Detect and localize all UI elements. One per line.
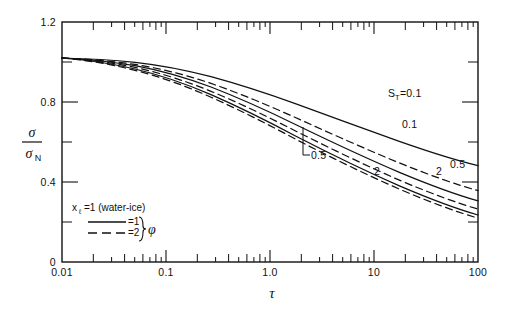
legend: x ℓ =1 (water-ice) =1 =2 φ — [72, 202, 156, 241]
x-tick-label-1.0: 1.0 — [262, 266, 278, 278]
annotation-2-dashed: 2 — [374, 165, 380, 177]
y-tick-label-0.8: 0.8 — [41, 96, 57, 108]
x-axis-tick-labels: 0.01 0.1 1.0 10 100 — [51, 266, 487, 278]
legend-label-phi-1: =1 — [128, 216, 140, 227]
annotation-0.1-dashed: 0.1 — [402, 118, 417, 130]
x-tick-label-0.01: 0.01 — [51, 266, 73, 278]
legend-header-main: x — [72, 202, 77, 213]
y-axis-ticks — [62, 62, 478, 222]
y-axis-title: σ σ N — [22, 125, 42, 163]
annotation-0.5-solid: 0.5 — [311, 149, 326, 161]
x-axis-title: τ — [269, 285, 275, 301]
legend-brace — [139, 217, 146, 241]
annotation-st-0.1: S T =0.1 — [388, 87, 422, 102]
curve-annotations: S T =0.1 0.1 0.5 2 2 0.5 — [311, 87, 465, 177]
legend-header-rest: =1 (water-ice) — [84, 202, 145, 213]
legend-label-phi-2: =2 — [128, 227, 140, 238]
y-tick-label-0.4: 0.4 — [41, 176, 57, 188]
x-tick-label-10: 10 — [368, 266, 380, 278]
x-tick-label-100: 100 — [469, 266, 487, 278]
y-tick-label-1.2: 1.2 — [41, 16, 57, 28]
legend-header-subscript: ℓ — [78, 208, 82, 215]
chart-svg: 1.2 0.8 0.4 0 0.01 0.1 1.0 10 100 τ σ σ … — [0, 0, 505, 319]
curve-st-2-phi-2 — [62, 58, 478, 218]
y-axis-title-denominator-subscript: N — [35, 153, 42, 163]
figure-container: 1.2 0.8 0.4 0 0.01 0.1 1.0 10 100 τ σ σ … — [0, 0, 505, 319]
y-axis-tick-labels: 1.2 0.8 0.4 0 — [41, 16, 57, 268]
annotation-0.5-dashed: 0.5 — [450, 158, 465, 170]
annotation-st-value: =0.1 — [400, 87, 422, 99]
data-curves — [62, 58, 478, 218]
x-tick-label-0.1: 0.1 — [158, 266, 174, 278]
curve-st-0.5-phi-2 — [62, 58, 478, 209]
y-axis-title-numerator: σ — [29, 125, 37, 140]
x-axis-title-text: τ — [269, 285, 275, 301]
legend-brace-symbol: φ — [148, 222, 156, 237]
curve-st-2-phi-1 — [62, 58, 478, 215]
y-axis-title-denominator: σ — [26, 146, 34, 161]
plot-frame — [62, 22, 478, 262]
annotation-2-solid: 2 — [436, 165, 442, 177]
